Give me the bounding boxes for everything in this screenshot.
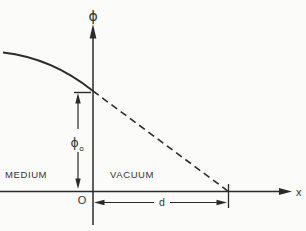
medium-potential-curve	[3, 53, 93, 92]
potential-diagram-figure: ϕ o d ϕ x O MEDIUM VACUUM	[0, 0, 306, 231]
y-axis-arrowhead-icon	[90, 24, 97, 39]
x-axis-label: x	[296, 186, 302, 198]
potential-diagram-canvas: ϕ o d ϕ x O MEDIUM VACUUM	[0, 0, 306, 231]
d-arrow-left-icon	[94, 200, 105, 205]
d-arrow-right-icon	[217, 200, 228, 205]
phi0-subscript-label: o	[79, 144, 84, 153]
region-label-vacuum: VACUUM	[110, 169, 154, 180]
d-label: d	[159, 196, 165, 208]
y-axis-label: ϕ	[88, 8, 97, 24]
phi0-arrow-down-icon	[75, 179, 80, 190]
phi0-arrow-up-icon	[75, 93, 80, 104]
region-label-medium: MEDIUM	[5, 169, 47, 180]
phi0-label: ϕ	[70, 135, 78, 150]
x-axis-arrowhead-icon	[279, 188, 292, 195]
origin-label: O	[78, 194, 87, 206]
